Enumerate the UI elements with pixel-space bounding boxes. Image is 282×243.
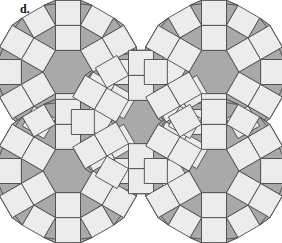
square-tile [202, 218, 227, 243]
square-tile [202, 124, 227, 149]
square-tile [202, 0, 227, 25]
square-tile [144, 159, 167, 184]
tiling-figure: d. [0, 0, 282, 243]
square-tile [0, 60, 21, 85]
square-tile [56, 25, 81, 50]
square-tile [202, 25, 227, 50]
square-tile [56, 0, 81, 25]
square-tile [202, 99, 227, 124]
square-tile [261, 159, 282, 184]
square-tile [261, 60, 282, 85]
square-tile [144, 60, 167, 85]
square-tile [71, 110, 94, 135]
tiling-svg [0, 0, 282, 243]
square-tile [56, 193, 81, 218]
square-tile [202, 193, 227, 218]
square-tile [0, 159, 21, 184]
square-tile [56, 218, 81, 243]
